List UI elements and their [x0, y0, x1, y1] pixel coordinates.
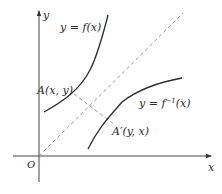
curve-f-label: y = f(x) [59, 21, 101, 34]
x-axis-label: x [208, 161, 215, 174]
reflection-segment [74, 94, 115, 125]
origin-label: O [27, 159, 35, 170]
curve-f-inverse-label: y = f−1(x) [138, 97, 191, 110]
point-a-label: A(x, y) [36, 84, 73, 97]
inverse-function-diagram: y x O y = f(x) y = f−1(x) A(x, y) A′(y, … [0, 0, 222, 194]
point-a-prime-label: A′(y, x) [111, 125, 149, 138]
y-axis-label: y [42, 9, 50, 22]
curve-f-inverse [88, 78, 182, 149]
